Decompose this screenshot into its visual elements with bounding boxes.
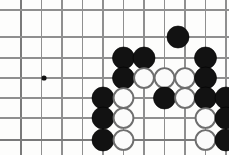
stone-black-11[interactable] [154, 87, 176, 109]
star-point-0 [41, 75, 46, 80]
stone-white-16[interactable] [114, 108, 134, 128]
stones-layer[interactable] [92, 26, 229, 151]
stone-white-5[interactable] [134, 68, 154, 88]
stone-white-7[interactable] [175, 68, 195, 88]
go-board[interactable] [0, 0, 229, 155]
stone-white-10[interactable] [114, 88, 134, 108]
stone-white-21[interactable] [196, 130, 216, 150]
stone-black-19[interactable] [92, 129, 114, 151]
stone-black-2[interactable] [133, 47, 155, 69]
stone-black-9[interactable] [92, 87, 114, 109]
stone-black-13[interactable] [195, 87, 217, 109]
stone-black-18[interactable] [215, 107, 229, 129]
stone-black-1[interactable] [113, 47, 135, 69]
stone-white-12[interactable] [175, 88, 195, 108]
stone-white-6[interactable] [155, 68, 175, 88]
stone-black-8[interactable] [195, 67, 217, 89]
goban-canvas[interactable] [0, 0, 229, 155]
stone-black-3[interactable] [195, 47, 217, 69]
stone-black-22[interactable] [215, 129, 229, 151]
stone-white-20[interactable] [114, 130, 134, 150]
stone-black-15[interactable] [92, 107, 114, 129]
stone-black-4[interactable] [113, 67, 135, 89]
stone-black-0[interactable] [167, 26, 189, 48]
stone-white-17[interactable] [196, 108, 216, 128]
star-points [41, 75, 46, 80]
stone-black-14[interactable] [215, 87, 229, 109]
